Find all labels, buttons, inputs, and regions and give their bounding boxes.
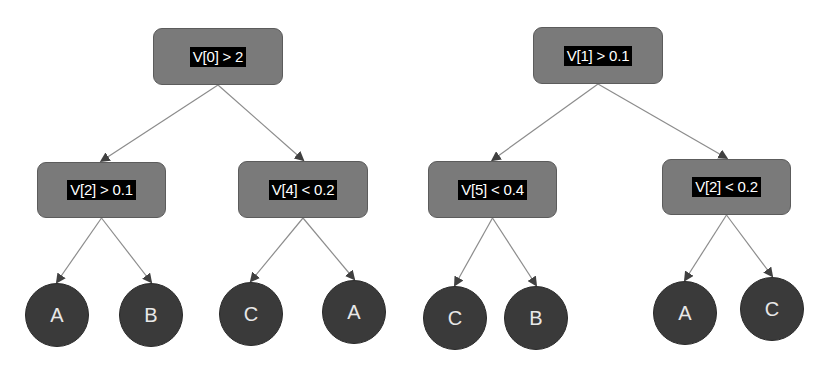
leaf-label: A xyxy=(678,302,691,325)
edge-arrow xyxy=(57,218,102,282)
edge-arrow xyxy=(493,218,537,285)
leaf-label: C xyxy=(244,303,258,326)
tree-1-leaf-2: B xyxy=(119,283,183,347)
edge-arrow xyxy=(455,218,493,285)
tree-1-left-label: V[2] > 0.1 xyxy=(67,180,136,200)
tree-2-right-label: V[2] < 0.2 xyxy=(692,177,761,197)
tree-1-right-label: V[4] < 0.2 xyxy=(269,180,338,200)
tree-2-leaf-3: A xyxy=(653,281,717,345)
edge-arrow xyxy=(102,85,219,161)
edge-arrow xyxy=(251,218,303,281)
tree-2-root-node: V[1] > 0.1 xyxy=(533,27,663,84)
tree-1-right-node: V[4] < 0.2 xyxy=(238,161,368,218)
decision-tree-diagram: V[0] > 2 V[2] > 0.1 V[4] < 0.2 A B C A V… xyxy=(0,0,825,372)
tree-2-leaf-4: C xyxy=(740,277,804,341)
leaf-label: A xyxy=(50,304,63,327)
tree-1-root-node: V[0] > 2 xyxy=(153,28,283,85)
leaf-label: B xyxy=(529,307,542,330)
edge-arrow xyxy=(493,84,599,160)
edge-arrow xyxy=(727,215,773,276)
tree-2-leaf-2: B xyxy=(504,286,568,350)
edge-arrow xyxy=(598,84,727,158)
edge-arrow xyxy=(685,215,727,280)
tree-2-left-label: V[5] < 0.4 xyxy=(458,180,527,200)
tree-2-root-label: V[1] > 0.1 xyxy=(564,46,633,66)
leaf-label: A xyxy=(347,301,360,324)
tree-2-right-node: V[2] < 0.2 xyxy=(662,159,791,215)
leaf-label: C xyxy=(448,307,462,330)
tree-1-root-label: V[0] > 2 xyxy=(190,47,247,67)
leaf-label: B xyxy=(144,304,157,327)
tree-2-leaf-1: C xyxy=(423,286,487,350)
leaf-label: C xyxy=(765,298,779,321)
tree-1-leaf-3: C xyxy=(219,282,283,346)
edge-arrow xyxy=(218,85,303,160)
tree-1-leaf-1: A xyxy=(25,283,89,347)
tree-2-left-node: V[5] < 0.4 xyxy=(428,161,557,218)
edge-arrow xyxy=(303,218,354,279)
edge-arrow xyxy=(102,218,152,282)
tree-1-leaf-4: A xyxy=(322,280,386,344)
tree-1-left-node: V[2] > 0.1 xyxy=(37,162,166,218)
